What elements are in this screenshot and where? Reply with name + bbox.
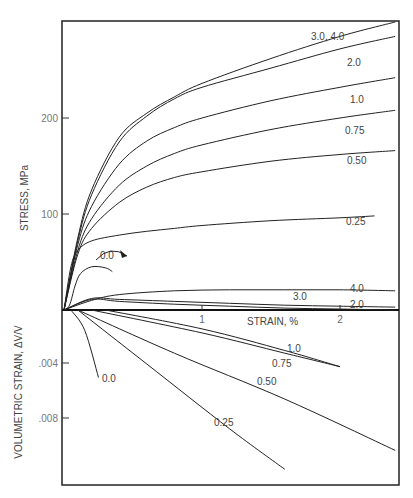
stress-curve xyxy=(64,110,395,310)
volumetric-curve xyxy=(71,310,99,378)
tick-2: 2 xyxy=(337,314,343,325)
stress-axis-label: STRESS, MPa xyxy=(19,165,30,232)
stress-curve xyxy=(64,298,395,310)
volumetric-curve xyxy=(78,310,395,450)
curve-label: 2.0 xyxy=(347,57,361,68)
curve-label: 1.0 xyxy=(350,94,364,105)
curve-label: 3.0 xyxy=(293,291,307,302)
curve-label: 0.50 xyxy=(347,155,367,166)
stress-curve xyxy=(64,78,395,310)
tick-008: .008 xyxy=(39,413,59,424)
curve-label: 0.75 xyxy=(272,358,292,369)
tick-1: 1 xyxy=(199,314,205,325)
arrowhead-icon xyxy=(120,250,127,258)
volumetric-curve xyxy=(78,310,285,469)
tick-004: .004 xyxy=(39,358,59,369)
curve-label: 0.0 xyxy=(102,373,116,384)
curve-label: 0.25 xyxy=(214,417,234,428)
volumetric-axis-label: VOLUMETRIC STRAIN, ΔV/V xyxy=(13,325,24,459)
curve-label: 0.75 xyxy=(345,125,365,136)
stress-curve xyxy=(64,36,395,310)
curve-label: 3.0, 4.0 xyxy=(311,31,345,42)
curve-label: 0.50 xyxy=(257,376,277,387)
curve-label: 1.0 xyxy=(287,343,301,354)
curve-labels-layer: 3.0, 4.02.01.00.750.500.250.04.03.02.00.… xyxy=(100,31,367,428)
tick-100: 100 xyxy=(41,209,58,220)
strain-axis-label: STRAIN, % xyxy=(247,316,298,327)
stress-curve xyxy=(64,151,395,310)
tick-200: 200 xyxy=(41,113,58,124)
stress-curve xyxy=(64,290,395,310)
curves-layer xyxy=(64,22,395,469)
stress-ticks: 200 100 xyxy=(41,113,69,220)
stress-curve xyxy=(64,299,395,310)
stress-curve xyxy=(64,22,395,310)
curve-label: 2.0 xyxy=(350,299,364,310)
stress-strain-chart: 200 100 .004 .008 1 2 STRAIN, % STRESS, … xyxy=(0,0,413,498)
volumetric-curve xyxy=(92,310,340,367)
curve-label: 0.25 xyxy=(346,216,366,227)
volumetric-ticks: .004 .008 xyxy=(39,358,69,424)
curve-label: 4.0 xyxy=(350,283,364,294)
